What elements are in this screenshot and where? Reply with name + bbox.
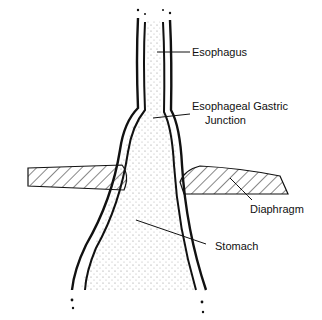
label-stomach: Stomach [215,240,258,252]
diaphragm-right [180,166,288,194]
label-esophagus: Esophagus [192,46,248,58]
label-ej-line1: Esophageal Gastric [192,100,288,112]
esophagus-stomach-diagram: Esophagus Esophageal Gastric Junction Di… [0,0,322,320]
label-ej-line2: Junction [205,114,246,126]
label-diaphragm: Diaphragm [250,203,304,215]
